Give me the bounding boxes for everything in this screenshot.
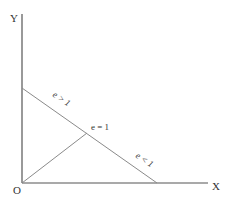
demand-line (22, 88, 157, 183)
x-axis-label: X (212, 180, 220, 192)
unit-elastic-label: e = 1 (91, 122, 109, 132)
origin-ray (22, 133, 87, 183)
y-axis-label: Y (10, 12, 18, 24)
inelastic-label: e < 1 (134, 150, 155, 169)
elastic-label: e > 1 (51, 89, 72, 108)
origin-label: O (13, 184, 21, 196)
elasticity-diagram: Y X O e > 1 e = 1 e < 1 (0, 0, 229, 207)
